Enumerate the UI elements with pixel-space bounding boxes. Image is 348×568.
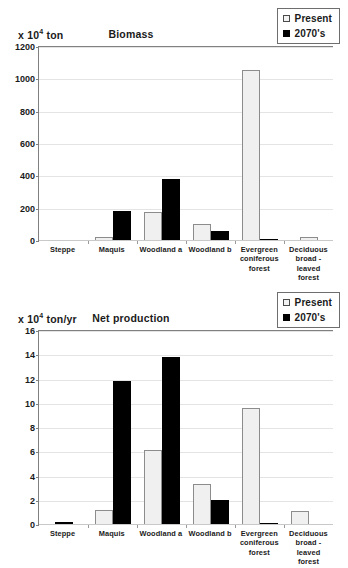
bar-2070s [211,500,229,525]
x-axis-baseline-biomass [39,240,333,241]
y-axis-tick-label: 400 [20,171,35,181]
bar-group [39,47,88,241]
y-axis-tick-label: 8 [30,423,35,433]
bar-pair [39,331,88,525]
biomass-chart: Present 2070's x 104 ton Biomass 0200400… [0,0,348,284]
bar-pair [88,47,137,241]
bar-group [137,47,186,241]
bar-group [284,47,333,241]
y-axis-tick-label: 0 [30,520,35,530]
bar-present [193,484,211,525]
bar-group [284,331,333,525]
legend-biomass: Present 2070's [277,8,340,44]
bar-group [235,47,284,241]
x-axis-category-label: Deciduousbroad -leavedforest [284,529,333,567]
legend-item-present: Present [283,296,332,309]
black-square-icon [283,30,290,37]
x-axis-tick-mark [186,525,187,528]
x-axis-category-label: Evergreenconiferousforest [235,529,284,567]
y-axis-tick-label: 6 [30,447,35,457]
y-axis-tick-label: 4 [30,472,35,482]
y-axis-tick-mark [36,241,39,242]
x-axis-category-label: Steppe [38,529,87,567]
bar-groups-net-production [39,331,333,525]
x-axis-tick-mark [88,241,89,244]
y-axis-tick-label: 800 [20,107,35,117]
y-axis-tick-label: 12 [25,375,35,385]
y-axis-tick-label: 600 [20,139,35,149]
x-axis-tick-mark [88,525,89,528]
y-axis-tick-label: 1000 [15,74,35,84]
x-axis-category-label: Woodland a [136,245,185,283]
bar-pair [186,331,235,525]
bar-2070s [113,211,131,241]
bar-present [291,511,309,525]
x-axis-category-label: Maquis [87,529,136,567]
bar-pair [235,331,284,525]
legend-item-2070s: 2070's [283,311,332,324]
bar-present [242,70,260,241]
bar-present [242,408,260,525]
x-axis-category-label: Evergreenconiferousforest [235,245,284,283]
x-axis-labels-net-production: SteppeMaquisWoodland aWoodland bEvergree… [38,529,333,567]
bar-pair [137,47,186,241]
bar-2070s [162,179,180,241]
net-production-chart: Present 2070's x 104 ton/yr Net producti… [0,284,348,568]
x-axis-category-label: Deciduousbroad -leavedforest [284,245,333,283]
bar-present [144,212,162,241]
y-axis-tick-label: 10 [25,399,35,409]
x-axis-category-label: Steppe [38,245,87,283]
plot-area-net-production: 0246810121416 [38,330,333,525]
bar-groups-biomass [39,47,333,241]
bar-group [186,331,235,525]
white-square-icon [283,15,290,22]
bar-present [144,450,162,525]
bar-group [88,331,137,525]
bar-2070s [113,381,131,525]
y-axis-tick-label: 200 [20,204,35,214]
bar-group [137,331,186,525]
x-axis-category-label: Maquis [87,245,136,283]
chart-page: Present 2070's x 104 ton Biomass 0200400… [0,0,348,568]
x-axis-category-label: Woodland a [136,529,185,567]
bar-group [88,47,137,241]
plot-area-biomass: 020040060080010001200 [38,46,333,241]
x-axis-tick-mark [284,525,285,528]
legend-item-present: Present [283,12,332,25]
x-axis-category-label: Woodland b [186,529,235,567]
bar-group [186,47,235,241]
x-axis-labels-biomass: SteppeMaquisWoodland aWoodland bEvergree… [38,245,333,283]
x-axis-tick-mark [137,525,138,528]
bar-pair [235,47,284,241]
bar-pair [284,47,333,241]
y-axis-tick-mark [36,525,39,526]
bar-pair [137,331,186,525]
y-axis-tick-label: 1200 [15,42,35,52]
legend-label-2070s: 2070's [295,28,326,39]
bar-2070s [162,357,180,525]
x-axis-tick-mark [235,525,236,528]
black-square-icon [283,314,290,321]
x-axis-tick-mark [137,241,138,244]
bar-pair [88,331,137,525]
y-axis-tick-label: 2 [30,496,35,506]
bar-pair [284,331,333,525]
legend-item-2070s: 2070's [283,27,332,40]
white-square-icon [283,299,290,306]
bar-group [235,331,284,525]
bar-pair [39,47,88,241]
x-axis-tick-mark [284,241,285,244]
bar-present [95,510,113,525]
bar-group [39,331,88,525]
y-axis-tick-label: 14 [25,350,35,360]
bar-pair [186,47,235,241]
y-axis-tick-label: 16 [25,326,35,336]
x-axis-baseline-net-production [39,524,333,525]
legend-net-production: Present 2070's [277,292,340,328]
legend-label-present: Present [295,13,332,24]
x-axis-tick-mark [235,241,236,244]
x-axis-tick-mark [186,241,187,244]
y-axis-tick-label: 0 [30,236,35,246]
legend-label-present: Present [295,297,332,308]
x-axis-category-label: Woodland b [186,245,235,283]
